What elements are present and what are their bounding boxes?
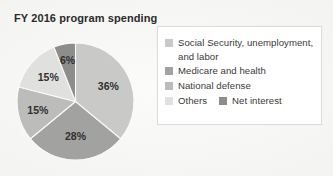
legend-item-others-and-net-interest: Others Net interest (165, 94, 317, 108)
pie-chart-svg: 36%28%15%15%6% (17, 43, 134, 160)
legend-item-medicare[interactable]: Medicare and health (165, 64, 317, 78)
legend-item-net-interest[interactable]: Net interest (219, 94, 282, 108)
legend-label-social-security: Social Security, unemployment, and labor (178, 36, 313, 63)
legend-item-national-defense[interactable]: National defense (165, 79, 317, 93)
pie-slice-label: 15% (38, 71, 60, 83)
legend-label-national-defense: National defense (178, 79, 251, 93)
legend-swatch-social-security (165, 39, 173, 47)
pie-slice-label: 36% (98, 80, 120, 92)
pie-slice-group (17, 43, 134, 160)
legend-label-net-interest: Net interest (232, 94, 282, 108)
legend-swatch-medicare (165, 67, 173, 75)
legend-label-medicare: Medicare and health (178, 64, 266, 78)
chart-title: FY 2016 program spending (14, 12, 157, 24)
legend-item-social-security[interactable]: Social Security, unemployment, and labor (165, 36, 317, 63)
legend-items: Social Security, unemployment, and labor… (165, 36, 317, 109)
pie-chart-figure: FY 2016 program spending 36%28%15%15%6% … (0, 0, 333, 176)
legend: Social Security, unemployment, and labor… (157, 26, 322, 125)
legend-swatch-national-defense (165, 82, 173, 90)
pie-slice-label: 6% (60, 54, 76, 66)
legend-swatch-others (165, 97, 173, 105)
legend-item-others[interactable]: Others (165, 94, 207, 108)
pie-slice-label: 15% (27, 104, 49, 116)
legend-swatch-net-interest (219, 97, 227, 105)
legend-label-others: Others (178, 94, 207, 108)
pie-chart: 36%28%15%15%6% (17, 43, 134, 160)
pie-slice-label: 28% (65, 130, 87, 142)
